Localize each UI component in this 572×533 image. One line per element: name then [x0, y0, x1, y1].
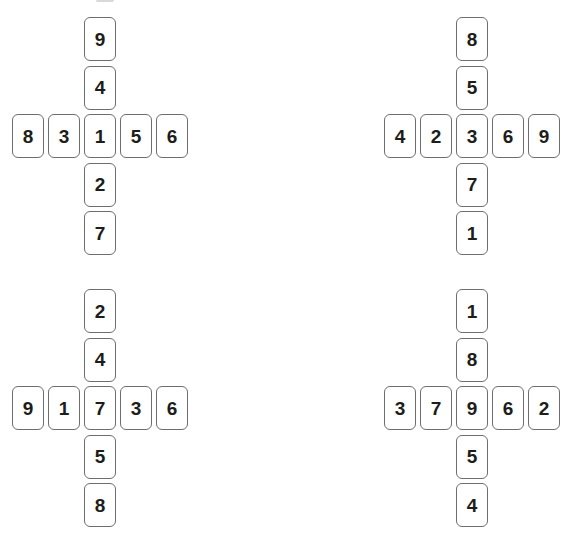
number-card[interactable]: 1 — [456, 289, 488, 333]
number-card[interactable]: 9 — [12, 386, 44, 430]
number-cross-puzzle-1: 9 4 8 3 1 5 6 2 7 — [12, 17, 188, 255]
number-card-center[interactable]: 1 — [84, 114, 116, 158]
number-card[interactable]: 5 — [456, 66, 488, 110]
number-card[interactable]: 1 — [48, 386, 80, 430]
number-card[interactable]: 4 — [84, 338, 116, 382]
number-card[interactable]: 4 — [84, 66, 116, 110]
number-cross-puzzle-4: 1 8 3 7 9 6 2 5 4 — [384, 289, 560, 527]
number-card[interactable]: 3 — [48, 114, 80, 158]
number-card-center[interactable]: 3 — [456, 114, 488, 158]
number-card[interactable]: 3 — [120, 386, 152, 430]
number-card-center[interactable]: 7 — [84, 386, 116, 430]
number-card[interactable]: 6 — [156, 114, 188, 158]
number-card[interactable]: 7 — [84, 211, 116, 255]
number-card[interactable]: 8 — [12, 114, 44, 158]
number-card[interactable]: 8 — [456, 17, 488, 61]
number-card[interactable]: 2 — [528, 386, 560, 430]
number-card-center[interactable]: 9 — [456, 386, 488, 430]
number-card[interactable]: 8 — [84, 483, 116, 527]
number-cross-puzzle-3: 2 4 9 1 7 3 6 5 8 — [12, 289, 188, 527]
number-card[interactable]: 9 — [84, 17, 116, 61]
number-card[interactable]: 6 — [492, 386, 524, 430]
number-card[interactable]: 2 — [420, 114, 452, 158]
number-card[interactable]: 2 — [84, 163, 116, 207]
number-card[interactable]: 5 — [84, 435, 116, 479]
number-card[interactable]: 5 — [456, 435, 488, 479]
number-card[interactable]: 8 — [456, 338, 488, 382]
puzzle-page: 9 4 8 3 1 5 6 2 7 8 5 4 2 3 6 9 7 1 2 4 … — [0, 0, 572, 533]
number-card[interactable]: 6 — [492, 114, 524, 158]
number-card[interactable]: 9 — [528, 114, 560, 158]
number-card[interactable]: 7 — [456, 163, 488, 207]
number-card[interactable]: 4 — [456, 483, 488, 527]
number-cross-puzzle-2: 8 5 4 2 3 6 9 7 1 — [384, 17, 560, 255]
number-card[interactable]: 7 — [420, 386, 452, 430]
number-card[interactable]: 4 — [384, 114, 416, 158]
number-card[interactable]: 1 — [456, 211, 488, 255]
number-card[interactable]: 5 — [120, 114, 152, 158]
cropped-card-edge-artifact — [96, 0, 114, 2]
number-card[interactable]: 3 — [384, 386, 416, 430]
number-card[interactable]: 2 — [84, 289, 116, 333]
number-card[interactable]: 6 — [156, 386, 188, 430]
